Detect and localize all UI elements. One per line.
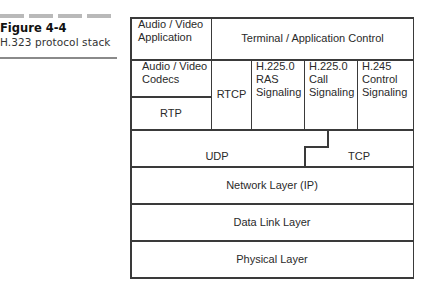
physical-layer-cell: Physical Layer xyxy=(131,241,413,277)
h225-call-line2: Call xyxy=(309,73,328,86)
h225-call-cell: H.225.0 Call Signaling xyxy=(309,60,357,129)
h225-ras-line3: Signaling xyxy=(256,86,301,99)
protocol-stack-diagram: Audio / Video Application Terminal / App… xyxy=(0,0,437,296)
rtp-cell: RTP xyxy=(131,97,211,129)
h225-ras-line1: H.225.0 xyxy=(256,60,295,73)
network-layer-cell: Network Layer (IP) xyxy=(131,167,413,203)
h245-line3: Signaling xyxy=(362,86,407,99)
h245-line2: Control xyxy=(362,73,397,86)
h225-ras-cell: H.225.0 RAS Signaling xyxy=(256,60,304,129)
row-divider-2 xyxy=(130,129,414,131)
h225-ras-line2: RAS xyxy=(256,73,279,86)
av-codecs-cell: Audio / Video Codecs xyxy=(142,60,210,96)
h245-line1: H.245 xyxy=(362,60,391,73)
data-link-layer-cell: Data Link Layer xyxy=(131,204,413,240)
av-application-cell: Audio / Video Application xyxy=(138,18,210,59)
terminal-control-cell: Terminal / Application Control xyxy=(212,18,413,59)
av-codecs-line2: Codecs xyxy=(142,73,179,86)
border-bottom xyxy=(130,277,414,279)
av-application-line1: Audio / Video xyxy=(138,18,203,31)
av-codecs-line1: Audio / Video xyxy=(142,60,207,73)
udp-cell: UDP xyxy=(131,147,303,166)
udp-tcp-step-upper xyxy=(327,129,329,147)
tcp-cell: TCP xyxy=(306,147,412,166)
av-application-line2: Application xyxy=(138,31,192,44)
h225-call-line1: H.225.0 xyxy=(309,60,348,73)
h225-call-line3: Signaling xyxy=(309,86,354,99)
rtcp-cell: RTCP xyxy=(212,60,251,129)
h245-cell: H.245 Control Signaling xyxy=(362,60,413,129)
